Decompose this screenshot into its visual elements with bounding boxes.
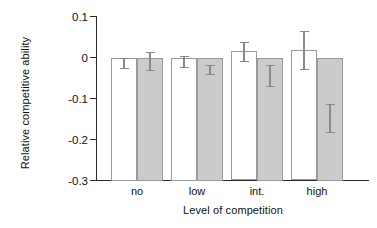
error-open-2-cap-upper: [240, 42, 249, 43]
error-open-3-cap-lower: [300, 69, 309, 70]
error-open-0-cap-lower: [120, 68, 129, 69]
error-shaded-0-stem: [149, 52, 150, 70]
bar-open-0: [111, 58, 137, 181]
error-shaded-2-cap-upper: [266, 65, 275, 66]
error-shaded-3-cap-upper: [326, 104, 335, 105]
x-category-label-0: no: [107, 184, 167, 198]
bar-open-1: [171, 58, 197, 181]
error-open-1-cap-upper: [180, 56, 189, 57]
x-axis-title: Level of competition: [97, 203, 369, 217]
error-open-0-stem: [123, 58, 124, 68]
x-category-label-1: low: [167, 184, 227, 198]
bar-shaded-0: [137, 58, 163, 181]
y-tick-mark: [90, 57, 96, 58]
bar-shaded-1: [197, 58, 223, 181]
error-open-3-stem: [303, 31, 304, 69]
y-tick-mark: [90, 139, 96, 140]
y-tick-label: -0.1: [38, 93, 88, 105]
y-tick-mark: [90, 16, 96, 17]
y-tick-mark: [90, 98, 96, 99]
error-open-1-cap-lower: [180, 67, 189, 68]
error-shaded-1-cap-lower: [206, 74, 215, 75]
error-open-2-cap-lower: [240, 61, 249, 62]
bar-chart-figure: Relative competitive ability 0.10-0.1-0.…: [0, 0, 377, 228]
error-shaded-0-cap-lower: [146, 70, 155, 71]
y-tick-label: 0: [38, 52, 88, 64]
error-shaded-1-stem: [209, 65, 210, 74]
y-tick-label: 0.1: [38, 11, 88, 23]
error-shaded-3-stem: [329, 104, 330, 132]
bar-open-2: [231, 51, 257, 180]
y-tick-mark: [90, 180, 96, 181]
error-shaded-3-cap-lower: [326, 132, 335, 133]
error-shaded-2-stem: [269, 65, 270, 86]
y-axis-line: [96, 16, 97, 181]
x-category-label-3: high: [287, 184, 347, 198]
error-shaded-0-cap-upper: [146, 52, 155, 53]
error-shaded-2-cap-lower: [266, 86, 275, 87]
error-open-0-cap-upper: [120, 58, 129, 59]
error-shaded-1-cap-upper: [206, 65, 215, 66]
error-open-1-stem: [183, 56, 184, 67]
y-tick-label: -0.2: [38, 134, 88, 146]
x-category-label-2: int.: [227, 184, 287, 198]
error-open-2-stem: [243, 42, 244, 61]
error-open-3-cap-upper: [300, 31, 309, 32]
y-axis-title: Relative competitive ability: [17, 16, 33, 191]
y-tick-label: -0.3: [38, 175, 88, 187]
